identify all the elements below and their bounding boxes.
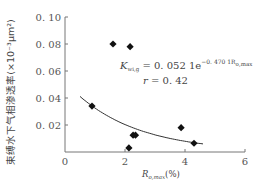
y-tick-label: 0. 08 (36, 39, 61, 50)
x-tick-label: 2 (122, 156, 128, 167)
correlation-coefficient: r = 0. 42 (143, 75, 188, 86)
data-point (125, 144, 132, 151)
y-ticks: 0. 020. 040. 060. 080. 10 (36, 12, 68, 131)
fit-equation: Kwi,g = 0. 052 1e−0. 470 1Ro,max (119, 58, 253, 73)
x-tick-label: 0 (62, 156, 68, 167)
data-point (109, 40, 116, 47)
y-tick-label: 0. 06 (36, 66, 61, 77)
y-tick-label: 0. 10 (36, 12, 61, 23)
y-tick-label: 0. 02 (36, 120, 61, 131)
x-tick-label: 4 (182, 156, 188, 167)
scatter-chart: 0. 020. 040. 060. 080. 10 0246 束缚水下气相渗透率… (0, 0, 261, 191)
x-tick-label: 6 (242, 156, 248, 167)
data-points (88, 40, 197, 151)
fit-curve (80, 96, 203, 143)
data-point (178, 124, 185, 131)
y-tick-label: 0. 04 (36, 93, 61, 104)
data-point (127, 43, 134, 50)
x-axis-label: Ro,max(%) (141, 169, 180, 180)
y-axis-label: 束缚水下气相渗透率(×10⁻³μm²) (5, 19, 16, 164)
data-point (190, 140, 197, 147)
